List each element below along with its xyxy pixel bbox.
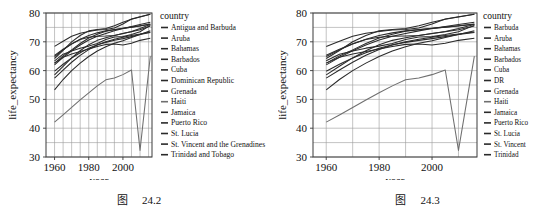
y-axis-title: life_expectancy <box>278 50 288 120</box>
caption-prefix: 图 <box>395 194 406 206</box>
x-axis-title: year <box>386 174 405 180</box>
figure-caption-right: 图24.3 <box>278 191 557 207</box>
y-axis-title: life_expectancy <box>6 50 18 120</box>
legend-item-label[interactable]: Haiti <box>171 97 186 106</box>
legend-item-label[interactable]: Bahamas <box>171 44 199 53</box>
x-tick-label: 1980 <box>78 161 101 173</box>
y-tick-label: 80 <box>29 7 41 19</box>
y-tick-label: 60 <box>29 65 41 77</box>
legend-item-label[interactable]: Puerto Rico <box>171 118 207 127</box>
legend-item-label[interactable]: Cuba <box>494 66 510 74</box>
x-tick-label: 2000 <box>421 161 444 173</box>
legend-item-label[interactable]: Grenada <box>494 88 519 96</box>
legend-item-label[interactable]: Haiti <box>494 98 508 106</box>
x-tick-label: 2000 <box>112 161 135 173</box>
x-axis-title: year <box>90 174 109 180</box>
legend-item-label[interactable]: St. Lucia <box>171 129 199 138</box>
legend-item-label[interactable]: St. Vincent <box>494 141 526 149</box>
caption-number: 24.2 <box>142 194 161 206</box>
legend-item-label[interactable]: Trinidad and Tobago <box>171 150 234 159</box>
legend-item-label[interactable]: DR <box>494 77 504 85</box>
y-tick-label: 30 <box>296 151 308 163</box>
legend-item-label[interactable]: St. Lucia <box>494 130 521 138</box>
legend-title: country <box>160 11 189 21</box>
x-tick-label: 1960 <box>315 161 338 173</box>
y-tick-label: 30 <box>29 151 41 163</box>
legend-item-label[interactable]: Jamaica <box>171 108 196 117</box>
y-tick-label: 50 <box>296 93 308 105</box>
y-tick-label: 40 <box>296 122 308 134</box>
x-tick-label: 1960 <box>44 161 67 173</box>
legend-item-label[interactable]: Puerto Rico <box>494 119 529 127</box>
figure-sheet: 304050607080196019802000yearlife_expecta… <box>0 0 557 211</box>
plot-area-left: 304050607080196019802000yearlife_expecta… <box>0 0 278 180</box>
plot-area-right: 304050607080196019802000yearlife_expecta… <box>278 0 557 180</box>
legend-item-label[interactable]: Jamaica <box>494 109 518 117</box>
y-tick-label: 70 <box>296 36 308 48</box>
y-tick-label: 80 <box>296 7 308 19</box>
legend-item-label[interactable]: Grenada <box>171 87 197 96</box>
chart-svg-left: 304050607080196019802000yearlife_expecta… <box>0 0 278 180</box>
x-tick-label: 1980 <box>368 161 391 173</box>
chart-svg-right: 304050607080196019802000yearlife_expecta… <box>278 0 557 180</box>
caption-prefix: 图 <box>117 194 128 206</box>
y-tick-label: 50 <box>29 93 41 105</box>
legend-item-label[interactable]: Cuba <box>171 65 188 74</box>
y-tick-label: 60 <box>296 65 308 77</box>
legend-item-label[interactable]: Aruba <box>171 34 191 43</box>
figure-24-3: 304050607080196019802000yearlife_expecta… <box>278 0 557 211</box>
y-tick-label: 40 <box>29 122 41 134</box>
legend-item-label[interactable]: Barbados <box>494 56 521 64</box>
legend-item-label[interactable]: Barbuda <box>494 24 519 32</box>
legend-item-label[interactable]: Aruba <box>494 35 513 43</box>
legend-item-label[interactable]: Trinidad <box>494 151 519 159</box>
figure-caption-left: 图24.2 <box>0 191 278 207</box>
caption-number: 24.3 <box>420 194 439 206</box>
legend-title: country <box>483 11 512 21</box>
legend-item-label[interactable]: Antigua and Barbuda <box>171 23 237 32</box>
legend-item-label[interactable]: Barbados <box>171 55 200 64</box>
legend-item-label[interactable]: Bahamas <box>494 45 521 53</box>
y-tick-label: 70 <box>29 36 41 48</box>
figure-24-2: 304050607080196019802000yearlife_expecta… <box>0 0 278 211</box>
legend-item-label[interactable]: St. Vincent and the Grenadines <box>171 140 265 149</box>
legend-item-label[interactable]: Dominican Republic <box>171 76 235 85</box>
